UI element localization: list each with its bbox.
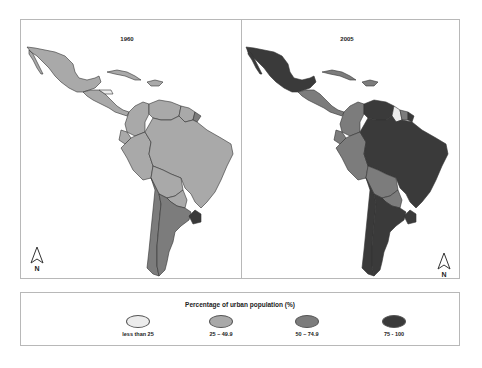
- region-argentina: [157, 194, 191, 276]
- region-argentina: [372, 194, 406, 276]
- legend-item-25-49: 25 – 49.9: [191, 315, 251, 337]
- north-label: N: [436, 271, 452, 278]
- legend-swatch: [126, 315, 150, 328]
- region-venezuela: [149, 100, 181, 120]
- north-arrow-1960: N: [29, 246, 45, 274]
- legend-label: 75 - 100: [364, 331, 424, 337]
- legend-item-75-100: 75 - 100: [364, 315, 424, 337]
- legend-label: 25 – 49.9: [191, 331, 251, 337]
- map-panel-1960: 1960: [21, 20, 242, 278]
- region-cuba: [322, 70, 356, 80]
- map-frame: 1960: [20, 19, 460, 279]
- legend: Percentage of urban population (%) less …: [20, 292, 460, 346]
- region-venezuela: [364, 100, 394, 120]
- legend-swatch: [295, 315, 319, 328]
- north-label: N: [29, 265, 45, 272]
- region-hispaniola: [147, 80, 163, 86]
- legend-item-50-74: 50 – 74.9: [277, 315, 337, 337]
- region-central-america: [298, 90, 344, 116]
- region-cuba: [107, 70, 141, 80]
- legend-swatch: [209, 315, 233, 328]
- region-french-guiana: [408, 112, 414, 122]
- legend-swatch: [382, 315, 406, 328]
- north-arrow-2005: N: [436, 252, 452, 280]
- legend-title: Percentage of urban population (%): [21, 301, 459, 308]
- north-arrow-icon: [436, 252, 452, 272]
- map-latin-america-2005: [242, 20, 460, 280]
- region-mexico: [246, 47, 316, 92]
- legend-item-less-than-25: less than 25: [108, 315, 168, 337]
- map-panel-2005: 2005: [242, 20, 460, 278]
- map-latin-america-1960: [21, 20, 242, 280]
- legend-label: 50 – 74.9: [277, 331, 337, 337]
- north-arrow-icon: [29, 246, 45, 266]
- region-hispaniola: [362, 80, 378, 86]
- legend-label: less than 25: [108, 331, 168, 337]
